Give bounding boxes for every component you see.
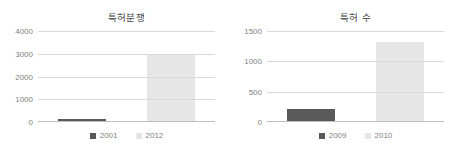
gridline	[267, 92, 444, 93]
gridline	[267, 61, 444, 62]
y-axis-tick-label: 1500	[244, 27, 262, 36]
gridline	[38, 54, 215, 55]
y-axis-tick-label: 0	[258, 118, 262, 127]
chart-panel-patent-count: 특허 수 050010001500 20092010	[229, 0, 458, 152]
y-axis-tick-label: 0	[29, 118, 33, 127]
y-axis-tick-label: 1000	[15, 95, 33, 104]
bar-group-right	[267, 30, 444, 121]
legend-right: 20092010	[267, 131, 444, 140]
y-axis-tick-label: 500	[249, 88, 262, 97]
bar-2012	[147, 55, 195, 121]
y-axis-tick-label: 3000	[15, 50, 33, 59]
bar-2009	[287, 109, 335, 121]
legend-label: 2001	[100, 131, 118, 140]
gridline	[267, 31, 444, 32]
dual-bar-chart-figure: 특허분쟁 01000200030004000 20012012 특허 수 050…	[0, 0, 458, 152]
gridline	[38, 31, 215, 32]
chart-title-right: 특허 수	[267, 10, 444, 24]
y-axis-tick-label: 2000	[15, 73, 33, 82]
legend-item-2001[interactable]: 2001	[90, 131, 118, 140]
plot-area-left: 01000200030004000	[38, 30, 215, 122]
y-axis-tick-label: 4000	[15, 27, 33, 36]
chart-title-left: 특허분쟁	[38, 10, 215, 24]
bar-2010	[376, 42, 424, 121]
y-axis-tick-label: 1000	[244, 57, 262, 66]
legend-swatch-icon	[136, 133, 142, 139]
legend-left: 20012012	[38, 131, 215, 140]
chart-panel-patent-disputes: 특허분쟁 01000200030004000 20012012	[0, 0, 229, 152]
bar-group-left	[38, 30, 215, 121]
legend-item-2012[interactable]: 2012	[136, 131, 164, 140]
legend-label: 2010	[375, 131, 393, 140]
axis-baseline	[38, 121, 215, 122]
gridline	[38, 99, 215, 100]
legend-swatch-icon	[90, 133, 96, 139]
legend-item-2010[interactable]: 2010	[365, 131, 393, 140]
plot-area-right: 050010001500	[267, 30, 444, 122]
legend-swatch-icon	[319, 133, 325, 139]
axis-baseline	[267, 121, 444, 122]
gridline	[38, 77, 215, 78]
legend-label: 2012	[146, 131, 164, 140]
legend-swatch-icon	[365, 133, 371, 139]
legend-label: 2009	[329, 131, 347, 140]
legend-item-2009[interactable]: 2009	[319, 131, 347, 140]
